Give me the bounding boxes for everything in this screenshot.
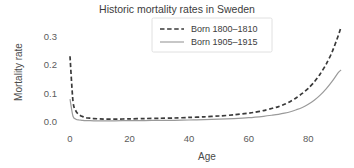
- x-axis-title: Age: [198, 151, 216, 162]
- x-tick-label: 20: [124, 133, 135, 144]
- x-tick-label: 80: [303, 133, 314, 144]
- x-tick-label: 40: [184, 133, 195, 144]
- y-tick-label: 0.3: [44, 31, 57, 42]
- y-tick-label: 0.0: [44, 116, 57, 127]
- x-tick-label: 0: [67, 133, 72, 144]
- legend-label-1: Born 1800–1810: [191, 24, 258, 34]
- chart-legend: Born 1800–1810Born 1905–1915: [152, 18, 272, 52]
- legend-label-2: Born 1905–1915: [191, 37, 258, 47]
- y-tick-label: 0.2: [44, 59, 57, 70]
- x-tick-label: 60: [243, 133, 254, 144]
- mortality-rate-chart: Historic mortality rates in Sweden 0.00.…: [0, 0, 354, 168]
- chart-title: Historic mortality rates in Sweden: [99, 3, 255, 15]
- y-axis-title: Mortality rate: [13, 43, 24, 101]
- y-tick-label: 0.1: [44, 88, 57, 99]
